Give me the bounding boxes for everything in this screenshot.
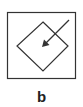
- figure-label: b: [0, 88, 83, 105]
